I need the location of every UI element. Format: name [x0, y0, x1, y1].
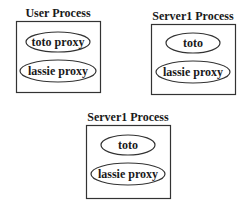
- component-toto: toto: [101, 135, 155, 155]
- component-toto-proxy: toto proxy: [26, 32, 90, 52]
- component-lassie-proxy: lassie proxy: [20, 60, 96, 82]
- component-lassie-proxy: lassie proxy: [156, 61, 230, 83]
- process-title: Server1 Process: [87, 110, 169, 124]
- process-box: [87, 126, 171, 199]
- component-label: lassie proxy: [163, 65, 223, 79]
- component-label: lassie proxy: [98, 167, 158, 181]
- process-box: [152, 25, 236, 95]
- process-server1-bottom: Server1 Process toto lassie proxy: [87, 110, 171, 199]
- process-server1-top: Server1 Process toto lassie proxy: [152, 9, 236, 95]
- component-toto: toto: [166, 33, 220, 53]
- component-label: toto: [183, 36, 203, 50]
- component-label: toto: [118, 138, 138, 152]
- process-title: Server1 Process: [152, 9, 234, 23]
- process-user: User Process toto proxy lassie proxy: [17, 6, 101, 93]
- component-label: lassie proxy: [28, 64, 88, 78]
- component-lassie-proxy: lassie proxy: [91, 163, 165, 185]
- diagram-canvas: User Process toto proxy lassie proxy Ser…: [0, 0, 251, 213]
- component-label: toto proxy: [32, 35, 85, 49]
- process-title: User Process: [25, 6, 91, 20]
